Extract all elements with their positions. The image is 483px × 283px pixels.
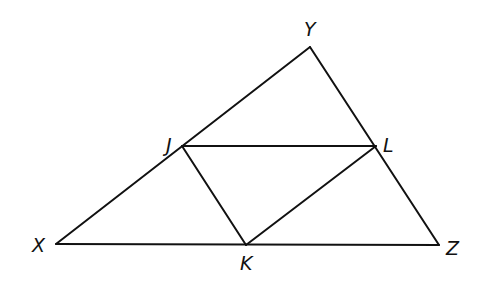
label-K: K — [240, 252, 254, 274]
label-X: X — [31, 234, 46, 256]
segment-KL — [246, 146, 376, 245]
triangle-diagram: X Y Z J L K — [0, 0, 483, 283]
label-Y: Y — [304, 18, 317, 40]
segments — [56, 47, 439, 245]
label-J: J — [162, 134, 172, 156]
label-Z: Z — [445, 237, 460, 259]
diagram-svg: X Y Z J L K — [0, 0, 483, 283]
segment-JK — [182, 146, 246, 245]
label-L: L — [383, 134, 394, 156]
